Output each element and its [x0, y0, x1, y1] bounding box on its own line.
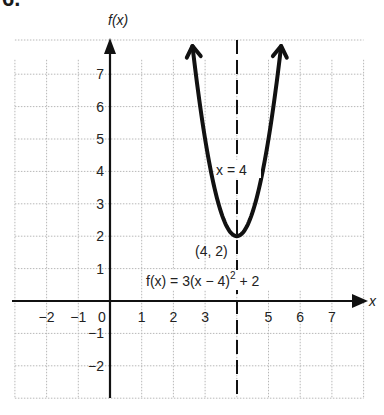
y-tick-label: −1 [88, 325, 104, 341]
grid [15, 40, 364, 398]
graph: −2−10123567 7654321−1−2 f(x) x x = 4 (4,… [0, 0, 384, 415]
x-tick-labels: −2−10123567 [39, 309, 336, 325]
x-tick-label: 7 [328, 309, 336, 325]
y-tick-labels: 7654321−1−2 [88, 66, 104, 374]
x-axis-arrow-icon [352, 294, 368, 308]
y-axis-label: f(x) [108, 12, 128, 28]
x-tick-label: 5 [265, 309, 273, 325]
x-tick-label: 3 [201, 309, 209, 325]
vertex-label: (4, 2) [195, 243, 228, 259]
y-tick-label: 3 [96, 196, 104, 212]
equation-label: f(x) = 3(x − 4)2 + 2 [146, 270, 260, 289]
y-tick-label: 1 [96, 261, 104, 277]
x-tick-label: 2 [170, 309, 178, 325]
y-tick-label: 4 [96, 163, 104, 179]
x-tick-label: 0 [98, 309, 106, 325]
x-tick-label: −2 [39, 309, 55, 325]
y-tick-label: 2 [96, 228, 104, 244]
x-tick-label: −1 [70, 309, 86, 325]
y-tick-label: 6 [96, 99, 104, 115]
x-axis-label: x [368, 293, 377, 309]
y-tick-label: −2 [88, 358, 104, 374]
x-tick-label: 1 [138, 309, 146, 325]
y-tick-label: 7 [96, 66, 104, 82]
y-tick-label: 5 [96, 131, 104, 147]
symmetry-label: x = 4 [216, 162, 247, 178]
x-tick-label: 6 [296, 309, 304, 325]
